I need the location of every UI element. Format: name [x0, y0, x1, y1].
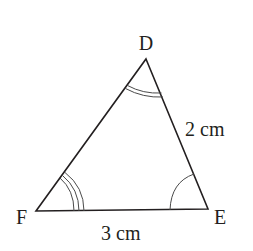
vertex-label-e: E	[214, 206, 226, 228]
vertex-label-f: F	[16, 206, 27, 228]
angle-f-mark	[60, 173, 84, 212]
vertex-label-d: D	[139, 32, 153, 54]
angle-e-mark	[170, 174, 194, 210]
side-label-fe: 3 cm	[101, 222, 141, 244]
triangle-diagram: D E F 2 cm 3 cm	[0, 0, 253, 251]
side-label-de: 2 cm	[185, 118, 225, 140]
triangle-def	[36, 59, 208, 211]
